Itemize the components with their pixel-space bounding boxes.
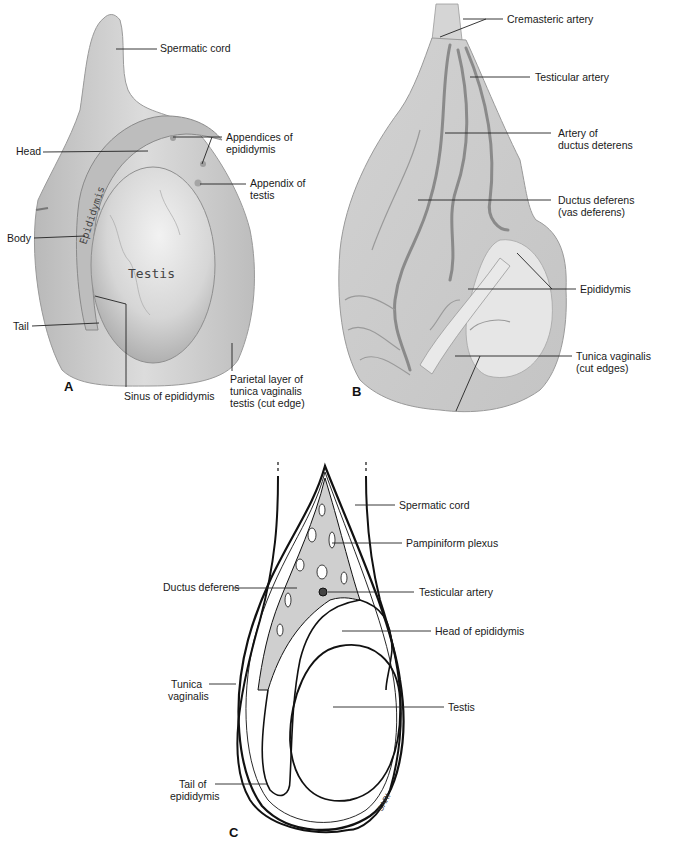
label-c-head-epididymis: Head of epididymis [435,625,524,637]
label-a-head: Head [16,145,41,157]
label-c-pampiniform: Pampiniform plexus [406,537,498,549]
label-b-ductus-2: (vas deferens) [558,206,625,218]
label-c-tunica-2: vaginalis [168,690,209,702]
label-b-testicular: Testicular artery [535,71,610,83]
label-b-cremasteric: Cremasteric artery [507,13,594,25]
label-c-tail-1: Tail of [179,778,207,790]
label-c-tail-2: epididymis [170,790,220,802]
panel-letter-a: A [64,379,74,394]
artist-signature: SARI [376,792,393,813]
label-c-testicular-artery: Testicular artery [419,586,494,598]
label-a-body: Body [7,232,32,244]
label-a-parietal-2: tunica vaginalis [230,385,302,397]
label-c-spermatic-cord: Spermatic cord [399,499,470,511]
label-b-epididymis: Epididymis [580,283,631,295]
label-b-ductus-1: Ductus deferens [558,194,634,206]
label-b-tunica-1: Tunica vaginalis [576,350,651,362]
label-c-tunica-1: Tunica [171,678,202,690]
label-c-ductus-deferens: Ductus deferens [163,581,239,593]
figure-canvas: Testis Epididymis Spermatic cord Head Ap… [0,0,678,845]
label-a-sinus: Sinus of epididymis [124,390,214,402]
inline-label-testis: Testis [128,266,175,281]
label-a-appendix-2: testis [250,189,275,201]
panel-c-illustration [237,462,403,832]
label-b-artery-dd-2: ductus deterens [558,139,633,151]
label-a-appendix-1: Appendix of [250,177,306,189]
label-a-parietal-3: testis (cut edge) [230,397,305,409]
panel-letter-c: C [229,825,239,840]
panel-letter-b: B [352,384,361,399]
panel-b-illustration [339,4,566,412]
label-b-artery-dd-1: Artery of [558,127,598,139]
label-a-appendices-2: epididymis [226,143,276,155]
label-a-spermatic-cord: Spermatic cord [160,42,231,54]
panel-a-illustration: Testis Epididymis [34,15,254,387]
label-c-testis: Testis [448,701,475,713]
label-a-parietal-1: Parietal layer of [230,373,303,385]
label-a-appendices-1: Appendices of [226,131,293,143]
label-b-tunica-2: (cut edges) [576,362,629,374]
label-a-tail: Tail [13,320,29,332]
